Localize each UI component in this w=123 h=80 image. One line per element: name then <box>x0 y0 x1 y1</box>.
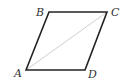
parallelogram-diagram: A B C D <box>0 0 123 80</box>
vertex-label-b: B <box>35 6 44 19</box>
vertex-label-c: C <box>111 6 120 19</box>
vertex-label-a: A <box>13 67 22 80</box>
diagram-canvas: A B C D <box>0 0 123 80</box>
vertex-label-d: D <box>87 68 97 80</box>
